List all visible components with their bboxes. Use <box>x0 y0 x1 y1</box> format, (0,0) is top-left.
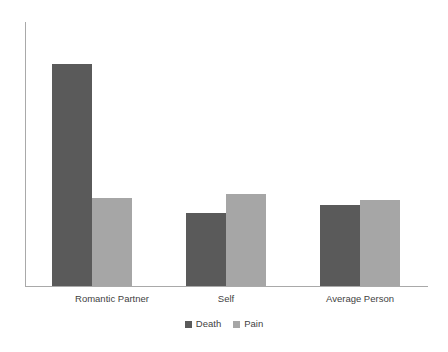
bar-average-person-death[interactable] <box>320 205 360 286</box>
legend-label-pain: Pain <box>244 318 263 330</box>
x-axis-line <box>25 286 428 287</box>
bar-self-death[interactable] <box>186 213 226 286</box>
x-tick-label-self: Self <box>156 292 296 306</box>
bar-self-pain[interactable] <box>226 194 266 286</box>
bar-average-person-pain[interactable] <box>360 200 400 286</box>
legend-item-death[interactable]: Death <box>185 318 221 330</box>
x-tick-label-average-person: Average Person <box>290 292 430 306</box>
x-axis-tick-labels: Romantic Partner Self Average Person <box>0 292 448 310</box>
bar-romantic-partner-death[interactable] <box>52 64 92 286</box>
chart-legend: Death Pain <box>0 318 448 330</box>
legend-swatch-death-icon <box>185 321 192 328</box>
bars-layer <box>0 0 448 286</box>
legend-label-death: Death <box>196 318 221 330</box>
legend-swatch-pain-icon <box>233 321 240 328</box>
bar-chart: Romantic Partner Self Average Person Dea… <box>0 0 448 352</box>
legend-item-pain[interactable]: Pain <box>233 318 263 330</box>
bar-romantic-partner-pain[interactable] <box>92 198 132 286</box>
